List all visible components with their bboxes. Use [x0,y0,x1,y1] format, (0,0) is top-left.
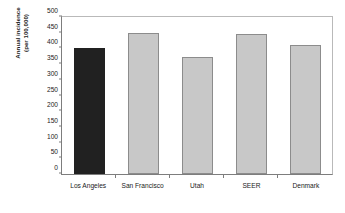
bar-slot [224,17,278,174]
y-axis-tick-label: 250 [18,85,62,92]
x-axis-category-label: Los Angeles [61,181,115,195]
y-axis-tick-label: 200 [18,101,62,108]
bar-chart: Annual incidence (per 100,000) 050100150… [0,0,345,213]
y-axis-tick-label: 0 [18,164,62,171]
y-axis-tick-label: 150 [18,116,62,123]
x-axis-category-label: San Francisco [115,181,169,195]
y-axis-tick-label: 300 [18,69,62,76]
x-axis-tick-mark [223,174,224,178]
y-axis-tick-label: 50 [18,148,62,155]
x-axis-labels: Los AngelesSan FranciscoUtahSEERDenmark [61,181,333,195]
x-axis-category-label: Utah [170,181,224,195]
bar [128,33,159,174]
x-axis-category-label: Denmark [279,181,333,195]
bar-slot [62,17,116,174]
y-axis-tick-label: 350 [18,54,62,61]
bar [236,34,267,174]
x-axis-tick-mark [115,174,116,178]
x-axis-tick-mark [169,174,170,178]
bar [290,45,321,174]
x-axis-tick-mark [277,174,278,178]
bar-slot [278,17,332,174]
bar-slot [116,17,170,174]
bar-slot [170,17,224,174]
y-axis-tick-label: 450 [18,22,62,29]
x-axis-category-label: SEER [224,181,278,195]
y-axis-tick-label: 500 [18,7,62,14]
plot-area: 050100150200250300350400450500 [61,16,333,175]
bar [74,48,105,174]
y-axis-tick-label: 400 [18,38,62,45]
bar-series [62,17,332,174]
bar [182,57,213,174]
y-axis-tick-label: 100 [18,132,62,139]
